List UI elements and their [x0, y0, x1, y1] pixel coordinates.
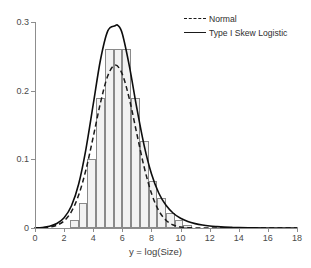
- x-tick-label: 14: [234, 233, 244, 244]
- x-tick: [151, 228, 152, 232]
- legend-item-type-i-skew-logistic: Type I Skew Logistic: [184, 26, 308, 39]
- x-tick: [268, 228, 269, 232]
- y-tick: [31, 22, 35, 23]
- x-tick: [297, 228, 298, 232]
- x-axis-line: [35, 228, 298, 229]
- y-tick-label: 0.3: [16, 17, 29, 27]
- y-axis-line: [35, 22, 36, 229]
- x-tick-label: 10: [176, 233, 186, 244]
- plot-area: [35, 22, 297, 228]
- x-tick-label: 8: [149, 233, 154, 244]
- legend-swatch-dashed-line: [184, 14, 206, 24]
- y-tick-label: 0: [24, 223, 29, 233]
- x-tick-label: 6: [120, 233, 125, 244]
- chart-legend: Normal Type I Skew Logistic: [184, 12, 308, 40]
- x-tick: [64, 228, 65, 232]
- series-line-type-i-skew-logistic: [35, 22, 297, 228]
- x-tick: [122, 228, 123, 232]
- x-tick: [239, 228, 240, 232]
- legend-swatch-solid-line: [184, 28, 206, 38]
- legend-item-normal: Normal: [184, 12, 308, 25]
- x-tick-label: 4: [91, 233, 96, 244]
- y-axis-tick-labels: 00.10.20.3: [0, 0, 29, 268]
- chart-figure: 00.10.20.3 024681012141618 y = log(Size)…: [0, 0, 311, 268]
- y-tick: [31, 91, 35, 92]
- x-tick-label: 16: [263, 233, 273, 244]
- y-tick: [31, 159, 35, 160]
- x-tick-label: 0: [32, 233, 37, 244]
- x-tick-label: 18: [292, 233, 302, 244]
- legend-label-normal: Normal: [206, 14, 237, 24]
- x-tick: [35, 228, 36, 232]
- x-tick-label: 12: [205, 233, 215, 244]
- x-tick: [93, 228, 94, 232]
- x-tick-label: 2: [62, 233, 67, 244]
- y-tick-label: 0.1: [16, 154, 29, 164]
- y-tick: [31, 228, 35, 229]
- x-tick: [181, 228, 182, 232]
- y-tick-label: 0.2: [16, 86, 29, 96]
- x-tick: [210, 228, 211, 232]
- x-axis-label: y = log(Size): [0, 246, 311, 257]
- legend-label-type-i-skew-logistic: Type I Skew Logistic: [206, 28, 287, 38]
